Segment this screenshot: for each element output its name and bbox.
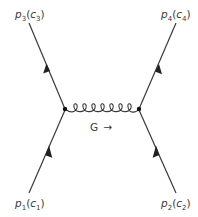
fermion-line-p1 (29, 110, 65, 193)
gluon-propagator (65, 104, 139, 112)
left-vertex (63, 107, 67, 111)
feynman-diagram: G → p3(c3) p4(c4) p1(c1) p2(c2) (0, 0, 198, 217)
label-p2: p2(c2) (160, 197, 191, 212)
right-vertex (137, 107, 141, 111)
arrow-right-icon: → (103, 121, 112, 133)
label-p1: p1(c1) (14, 197, 45, 212)
arrow-up-icon (153, 146, 160, 158)
label-p3: p3(c3) (14, 8, 45, 23)
fermion-line-p2 (139, 110, 176, 193)
gluon-label: G → (90, 121, 112, 133)
fermion-line-p3 (29, 23, 65, 109)
label-p4: p4(c4) (160, 8, 191, 23)
fermion-line-p4 (139, 23, 176, 109)
